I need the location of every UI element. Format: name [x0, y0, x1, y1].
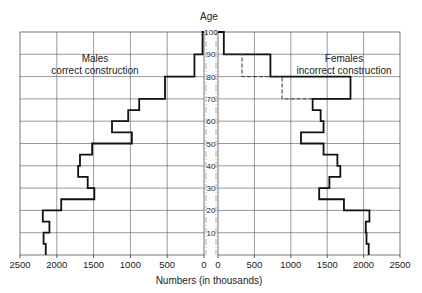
age-tick-label: 50 [207, 140, 216, 149]
age-tick-label: 90 [207, 50, 216, 59]
males-label-line2: correct construction [51, 65, 138, 76]
x-tick-labels: 2500200015001000500005001000150020002500 [9, 255, 410, 270]
age-tick-label: 70 [207, 95, 216, 104]
age-tick-label: 10 [207, 229, 216, 238]
age-tick-label: 20 [207, 206, 216, 215]
x-tick-label-left: 1000 [120, 259, 141, 270]
x-tick-label-left: 500 [159, 259, 175, 270]
x-tick-label-right: 1500 [317, 259, 338, 270]
population-pyramid-chart: 100908070605040302010 250020001500100050… [0, 0, 422, 293]
males-label-line1: Males [82, 53, 109, 64]
x-tick-label-left: 2500 [9, 259, 30, 270]
age-axis-title: Age [200, 11, 218, 22]
x-tick-label-right: 1000 [280, 259, 301, 270]
x-tick-label-left: 0 [201, 259, 206, 270]
x-tick-label-left: 2000 [46, 259, 67, 270]
x-tick-label-right: 0 [215, 259, 220, 270]
age-tick-label: 30 [207, 184, 216, 193]
x-tick-label-left: 1500 [83, 259, 104, 270]
x-tick-label-right: 2000 [353, 259, 374, 270]
females-label-line2: incorrect construction [296, 65, 391, 76]
age-tick-label: 60 [207, 117, 216, 126]
age-tick-label: 80 [207, 73, 216, 82]
x-tick-label-right: 500 [246, 259, 262, 270]
x-axis-title: Numbers (in thousands) [156, 275, 263, 286]
age-tick-label: 100 [204, 28, 218, 37]
age-tick-label: 40 [207, 162, 216, 171]
age-axis: 100908070605040302010 [204, 28, 218, 255]
females-label-line1: Females [325, 53, 363, 64]
x-tick-label-right: 2500 [389, 259, 410, 270]
